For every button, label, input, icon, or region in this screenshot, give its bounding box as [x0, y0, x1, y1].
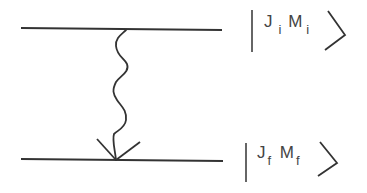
- initial-state-label: Ji Mi: [264, 12, 309, 32]
- final-level-line: [21, 159, 223, 161]
- final-M-subscript: f: [296, 153, 300, 168]
- initial-level-line: [21, 28, 222, 30]
- final-M: M: [280, 143, 294, 162]
- final-ket-angle: [318, 142, 337, 176]
- initial-M-subscript: i: [306, 22, 309, 37]
- initial-J: J: [264, 12, 273, 31]
- photon-wavy-line: [113, 30, 127, 160]
- final-J: J: [257, 143, 266, 162]
- initial-M: M: [288, 12, 302, 31]
- initial-ket-angle: [325, 11, 345, 50]
- initial-J-subscript: i: [279, 22, 282, 37]
- final-J-subscript: f: [268, 153, 272, 168]
- transition-diagram: [0, 0, 367, 193]
- arrowhead-right: [116, 142, 140, 160]
- final-state-label: Jf Mf: [257, 143, 300, 163]
